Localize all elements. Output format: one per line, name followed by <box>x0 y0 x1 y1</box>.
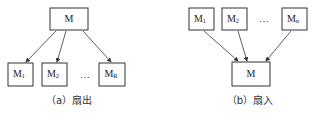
fan-in-diagram: M1 M2 … Mn M （b）扇入 <box>189 8 307 106</box>
fan-diagram: M M1 M2 … MR （a）扇出 M1 M2 … Mn M （b）扇入 <box>0 0 313 120</box>
arrow-to-mr <box>83 31 111 62</box>
caption-fan-out: （a）扇出 <box>46 94 92 106</box>
ellipsis: … <box>80 69 90 80</box>
arrow-from-mn <box>266 31 291 61</box>
arrow-from-m1 <box>204 31 238 61</box>
arrow-to-m1 <box>26 31 56 62</box>
ellipsis: … <box>259 13 269 24</box>
module-label-child: M <box>247 68 256 79</box>
fan-out-diagram: M M1 M2 … MR （a）扇出 <box>8 8 125 106</box>
module-label-parent: M <box>65 13 74 24</box>
arrow-from-m2 <box>238 31 247 61</box>
caption-fan-in: （b）扇入 <box>227 94 273 106</box>
arrow-to-m2 <box>57 31 66 62</box>
